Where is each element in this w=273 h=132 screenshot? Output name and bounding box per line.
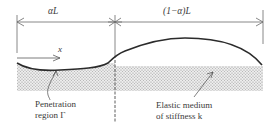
beam [17, 38, 262, 70]
penetration-label-line1: Penetration [35, 99, 76, 109]
one-minus-alpha-l-label: (1−α)L [163, 6, 191, 17]
elastic-medium [17, 63, 263, 91]
alpha-l-label: αL [48, 6, 58, 16]
dimension-line [17, 18, 263, 26]
penetration-label-line2: region Γ [35, 110, 65, 120]
medium-label-line1: Elastic medium [156, 100, 212, 110]
x-axis-label: x [57, 44, 62, 54]
medium-label-line2: of stiffness k [156, 111, 203, 121]
x-axis-arrow [17, 55, 60, 61]
beam-diagram: x αL (1−α)L Penetration region Γ Elastic… [0, 0, 273, 132]
